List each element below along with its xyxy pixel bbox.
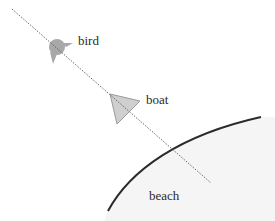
sightline [12,9,211,183]
sightline-diagram: bird boat beach [0,0,275,221]
boat-label: boat [146,92,169,107]
bird-label: bird [78,33,99,48]
bird-icon [49,39,73,64]
beach-region [104,117,275,221]
beach-label: beach [149,188,180,203]
